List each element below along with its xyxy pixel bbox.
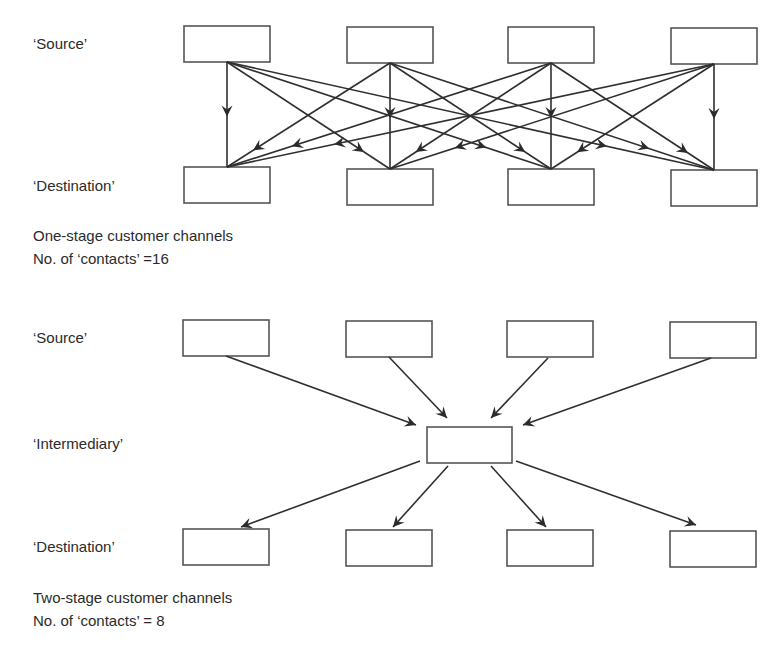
destination-box-3: [507, 530, 593, 566]
destination-box-1: [184, 167, 270, 203]
outbound-edge: [491, 466, 546, 527]
arrowhead-icon: [352, 141, 364, 152]
outbound-edge: [516, 461, 696, 525]
source-box-3: [508, 27, 594, 63]
destination-box-4: [670, 531, 756, 567]
arrowhead-icon: [416, 141, 428, 152]
two-stage-network: [183, 320, 756, 567]
arrowhead-icon: [676, 142, 688, 153]
source-box-3: [507, 321, 593, 357]
source-box-2: [346, 321, 432, 357]
destination-box-1: [183, 529, 269, 565]
intermediary-box: [427, 427, 512, 463]
inbound-edge: [491, 358, 548, 418]
source-box-1: [183, 320, 269, 356]
arrowhead-icon: [577, 142, 589, 153]
contact-edge: [227, 64, 714, 167]
source-box-4: [670, 322, 756, 358]
outbound-edge: [393, 466, 448, 527]
destination-box-2: [347, 169, 433, 205]
destination-box-3: [508, 169, 594, 205]
one-stage-network: [184, 26, 757, 206]
inbound-edge: [226, 356, 416, 425]
destination-box-4: [671, 170, 757, 206]
outbound-edge: [241, 461, 420, 527]
channel-diagram: [0, 0, 780, 652]
source-box-4: [671, 28, 757, 64]
arrowhead-icon: [253, 140, 265, 151]
inbound-edge: [389, 357, 447, 418]
source-box-1: [184, 26, 270, 62]
source-box-2: [347, 27, 433, 63]
inbound-edge: [523, 358, 711, 425]
destination-box-2: [346, 530, 432, 566]
arrowhead-icon: [513, 141, 525, 152]
